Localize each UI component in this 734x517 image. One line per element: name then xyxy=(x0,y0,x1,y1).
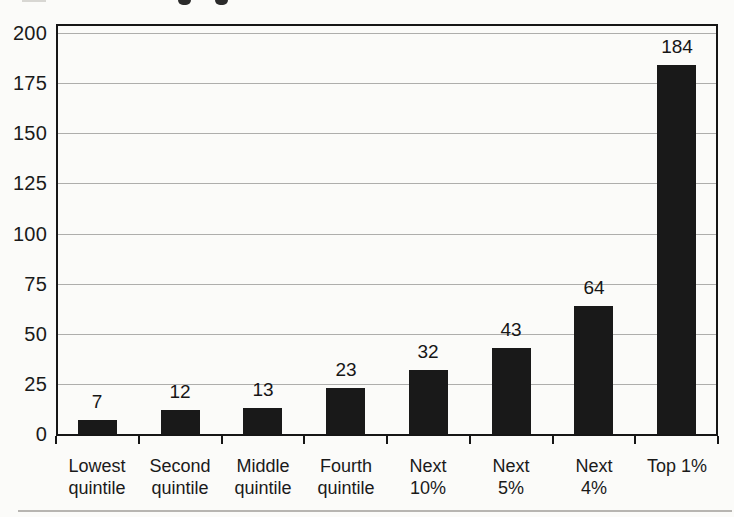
bar xyxy=(78,420,117,434)
gridline xyxy=(58,234,716,235)
x-category-label: Middlequintile xyxy=(217,455,309,499)
x-axis-tick xyxy=(386,436,388,444)
scanned-page: 0255075100125150175200 LowestquintileSec… xyxy=(0,0,734,517)
gridline xyxy=(58,334,716,335)
bar xyxy=(492,348,531,434)
x-category-label-line: Second xyxy=(149,456,210,476)
y-tick-label: 200 xyxy=(0,21,47,45)
x-axis-tick xyxy=(303,436,305,444)
y-tick-label: 125 xyxy=(0,171,47,195)
x-category-label: Lowestquintile xyxy=(51,455,143,499)
bar-chart: 0255075100125150175200 LowestquintileSec… xyxy=(0,0,734,517)
x-axis-tick xyxy=(55,436,57,444)
x-category-label-line: quintile xyxy=(317,478,374,498)
bar xyxy=(409,370,448,434)
x-category-label-line: quintile xyxy=(151,478,208,498)
x-category-label-line: Next xyxy=(409,456,446,476)
bar xyxy=(657,65,696,434)
x-category-label: Next10% xyxy=(382,455,474,499)
bar-value-label: 43 xyxy=(471,319,551,341)
x-axis-tick xyxy=(138,436,140,444)
x-category-label-line: quintile xyxy=(68,478,125,498)
bar xyxy=(161,410,200,434)
x-category-label: Secondquintile xyxy=(134,455,226,499)
y-tick-label: 175 xyxy=(0,71,47,95)
bar xyxy=(243,408,282,434)
x-category-label-line: quintile xyxy=(234,478,291,498)
x-category-label: Next4% xyxy=(548,455,640,499)
x-category-label-line: Next xyxy=(575,456,612,476)
x-category-label-line: Top 1% xyxy=(647,456,707,476)
x-category-label-line: Next xyxy=(492,456,529,476)
y-tick-label: 150 xyxy=(0,121,47,145)
x-axis-tick xyxy=(717,436,719,444)
x-category-label-line: 10% xyxy=(410,478,446,498)
x-axis-tick xyxy=(634,436,636,444)
page-divider xyxy=(18,510,732,512)
plot-area xyxy=(56,24,718,436)
y-tick-label: 50 xyxy=(0,322,47,346)
bar-value-label: 64 xyxy=(554,277,634,299)
x-category-label: Top 1% xyxy=(631,455,723,477)
bar-value-label: 13 xyxy=(223,379,303,401)
x-category-label: Next5% xyxy=(465,455,557,499)
bar-value-label: 23 xyxy=(306,359,386,381)
x-category-label: Fourthquintile xyxy=(300,455,392,499)
bar-value-label: 184 xyxy=(637,36,717,58)
gridline xyxy=(58,83,716,84)
bar xyxy=(326,388,365,434)
y-tick-label: 100 xyxy=(0,222,47,246)
bar xyxy=(574,306,613,434)
bar-value-label: 32 xyxy=(388,341,468,363)
bar-value-label: 7 xyxy=(57,391,137,413)
x-category-label-line: 4% xyxy=(581,478,607,498)
x-category-label-line: Middle xyxy=(236,456,289,476)
x-axis-tick xyxy=(552,436,554,444)
y-tick-label: 75 xyxy=(0,272,47,296)
x-category-label-line: Lowest xyxy=(68,456,125,476)
bar-value-label: 12 xyxy=(140,381,220,403)
gridline xyxy=(58,133,716,134)
x-axis-tick xyxy=(221,436,223,444)
gridline xyxy=(58,183,716,184)
x-axis-tick xyxy=(469,436,471,444)
y-tick-label: 0 xyxy=(0,422,47,446)
x-category-label-line: Fourth xyxy=(320,456,372,476)
gridline xyxy=(58,33,716,34)
y-tick-label: 25 xyxy=(0,372,47,396)
x-category-label-line: 5% xyxy=(498,478,524,498)
